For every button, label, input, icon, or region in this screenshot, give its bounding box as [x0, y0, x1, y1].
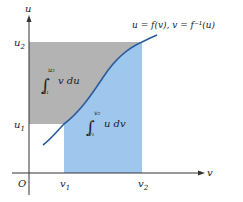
gray-lower-limit: u₁	[42, 88, 49, 96]
u1-tick-label: u1	[14, 119, 25, 133]
u-axis-arrow-icon	[27, 15, 32, 22]
blue-lower-limit: v₁	[88, 130, 94, 138]
v-axis-label: v	[207, 167, 213, 178]
u-axis-label: u	[25, 3, 31, 14]
blue-upper-limit: v₂	[94, 109, 101, 117]
blue-integrand: u dv	[104, 118, 126, 129]
gray-upper-limit: u₂	[48, 66, 55, 74]
v2-tick-label: v2	[138, 178, 149, 192]
v-axis-arrow-icon	[198, 171, 205, 176]
gray-integrand: v du	[58, 75, 80, 86]
v1-tick-label: v1	[60, 178, 70, 192]
origin-label: O	[18, 178, 26, 189]
integration-by-parts-diagram: u v O u2 u1 v1 v2 u = f(v), v = f⁻¹(u) ∫…	[0, 0, 243, 202]
curve-label: u = f(v), v = f⁻¹(u)	[132, 20, 216, 30]
u2-tick-label: u2	[14, 37, 25, 51]
